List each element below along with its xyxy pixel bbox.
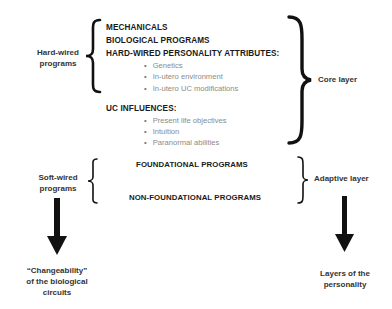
layers-line2: personality — [310, 279, 380, 290]
core-item-hard-wired-attributes: HARD-WIRED PERSONALITY ATTRIBUTES: — [106, 49, 279, 58]
core-layer-label: Core layer — [318, 74, 357, 85]
hard-wired-line2: programs — [28, 58, 88, 69]
changeability-line1: “Changeability” — [12, 265, 102, 276]
bullet-in-utero-uc-modifications: In-utero UC modifications — [144, 84, 238, 93]
soft-wired-left-brace — [87, 158, 99, 204]
layers-line1: Layers of the — [310, 268, 380, 279]
core-item-biological-programs: BIOLOGICAL PROGRAMS — [106, 36, 210, 45]
changeability-line3: circuits — [12, 287, 102, 298]
core-layer-right-brace — [287, 15, 313, 145]
bullet-paranormal-abilities: Paranormal abilities — [144, 138, 219, 147]
bullet-in-utero-environment: In-utero environment — [144, 72, 223, 81]
hard-wired-left-brace — [84, 19, 102, 93]
left-down-arrow-icon — [46, 198, 68, 256]
bullet-genetics: Genetics — [144, 61, 183, 70]
hard-wired-programs-label: Hard-wired programs — [28, 47, 88, 69]
core-item-mechanicals: MECHANICALS — [106, 23, 168, 32]
core-item-uc-influences: UC INFLUENCES: — [106, 104, 177, 113]
changeability-line2: of the biological — [12, 276, 102, 287]
hard-wired-line1: Hard-wired — [28, 47, 88, 58]
soft-wired-line2: programs — [30, 183, 86, 194]
soft-wired-line1: Soft-wired — [30, 172, 86, 183]
adaptive-layer-right-brace — [297, 156, 309, 204]
adaptive-item-non-foundational: NON-FOUNDATIONAL PROGRAMS — [105, 193, 285, 202]
bullet-intuition: Intuition — [144, 127, 179, 136]
adaptive-layer-label: Adaptive layer — [314, 173, 369, 184]
bullet-present-life-objectives: Present life objectives — [144, 116, 227, 125]
changeability-label: “Changeability” of the biological circui… — [12, 265, 102, 298]
adaptive-item-foundational: FOUNDATIONAL PROGRAMS — [122, 160, 262, 169]
layers-of-personality-label: Layers of the personality — [310, 268, 380, 290]
right-down-arrow-icon — [334, 196, 356, 254]
soft-wired-programs-label: Soft-wired programs — [30, 172, 86, 194]
